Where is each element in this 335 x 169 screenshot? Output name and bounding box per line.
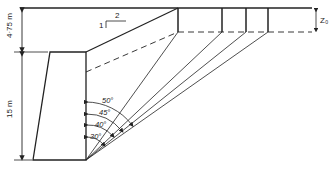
slope-horizontal-label: 2	[115, 11, 120, 20]
retaining-wall-diagram: 4·75 m 15 m 1 2 Z₀ 50° 45° 40°	[0, 0, 335, 169]
crack-depth-dashed-slope	[86, 32, 178, 72]
angle-label-30: 30°	[90, 132, 101, 141]
slope-indicator: 1 2	[99, 11, 126, 30]
z0-dimension: Z₀	[316, 10, 328, 30]
backfill-slope-line	[86, 8, 178, 52]
height-dimension: 4·75 m 15 m	[5, 10, 48, 160]
slope-vertical-label: 1	[99, 21, 104, 30]
angle-label-50: 50°	[102, 96, 113, 105]
tension-cracks	[178, 8, 268, 32]
z0-label: Z₀	[320, 16, 328, 25]
retaining-wall	[33, 52, 86, 160]
wall-height-label: 15 m	[5, 100, 14, 118]
upper-height-label: 4·75 m	[5, 13, 14, 38]
angle-label-45: 45°	[99, 108, 110, 117]
angle-label-40: 40°	[95, 120, 106, 129]
